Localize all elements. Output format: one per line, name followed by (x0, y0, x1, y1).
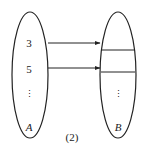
set-b-ellipsis: ⋮ (114, 89, 123, 99)
mapping-diagram: 3 5 ⋮ A ⋮ B (2) (0, 0, 148, 149)
set-a-element-5: 5 (26, 63, 32, 75)
figure-caption: (2) (66, 131, 79, 144)
set-b-ellipse (100, 12, 136, 138)
set-a-element-3: 3 (26, 37, 32, 49)
set-a-label: A (25, 121, 33, 133)
set-a-ellipse (12, 12, 48, 138)
set-a-ellipsis: ⋮ (25, 89, 34, 99)
set-b-label: B (115, 121, 122, 133)
